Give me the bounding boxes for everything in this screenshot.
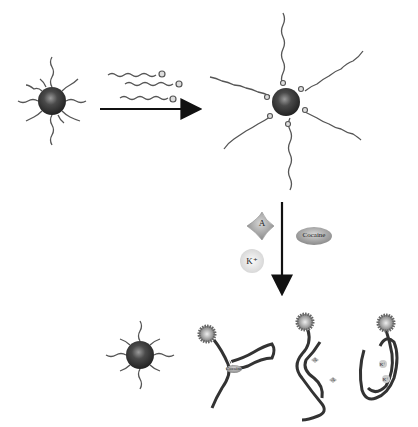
gold-nanoparticle-icon [272, 88, 300, 116]
dye-icon [159, 71, 165, 77]
fluorophore-star-icon [199, 326, 215, 342]
diagram-canvas [0, 0, 418, 427]
gold-nanoparticle-icon [126, 341, 154, 369]
bound-adenosine-label-1: A [309, 357, 321, 362]
cocaine-aptamer [212, 340, 274, 408]
bound-potassium-label-1: K⁺ [377, 361, 389, 367]
dye-icon [176, 81, 182, 87]
adenosine-aptamer [297, 330, 324, 420]
cocaine-label: Cocaine [296, 231, 332, 239]
bound-adenosine-label-2: A [327, 377, 339, 382]
fluorophore-star-icon [378, 315, 394, 331]
dye-labeled-strands [108, 74, 173, 100]
bound-cocaine-label: Cocaine [224, 366, 244, 371]
dye-icon [170, 96, 176, 102]
potassium-label: K⁺ [242, 256, 262, 266]
fluorophore-star-icon [297, 314, 313, 330]
adenosine-label: A [254, 218, 270, 228]
gold-nanoparticle-icon [38, 87, 66, 115]
bound-potassium-label-2: K⁺ [380, 376, 392, 382]
